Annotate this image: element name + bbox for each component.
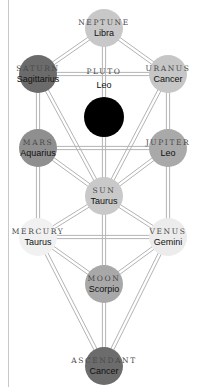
diagram-canvas: NEPTUNELibraSATURNSagittariusURANUSCance… <box>0 0 208 387</box>
saturn-sign-label: Sagittarius <box>17 74 60 84</box>
ascendant-sign-label: Cancer <box>89 366 118 376</box>
mercury-planet-label: MERCURY <box>12 227 64 236</box>
node-ascendant: ASCENDANTCancer <box>70 347 137 385</box>
venus-planet-label: VENUS <box>149 227 187 236</box>
node-saturn: SATURNSagittarius <box>16 55 59 93</box>
tree-of-life-chart: NEPTUNELibraSATURNSagittariusURANUSCance… <box>0 0 208 387</box>
moon-planet-label: MOON <box>88 274 121 283</box>
mars-sign-label: Aquarius <box>20 148 56 158</box>
edge-mercury-ascendant <box>37 236 106 366</box>
planet-nodes: NEPTUNELibraSATURNSagittariusURANUSCance… <box>12 9 191 385</box>
uranus-planet-label: URANUS <box>145 64 190 73</box>
venus-sign-label: Gemini <box>154 237 183 247</box>
node-moon: MOONScorpio <box>85 265 123 303</box>
mercury-sign-label: Taurus <box>24 237 52 247</box>
sun-planet-label: SUN <box>93 186 116 195</box>
sun-sign-label: Taurus <box>90 196 118 206</box>
edge-venus-ascendant <box>103 236 170 366</box>
node-jupiter: JUPITERLeo <box>145 129 191 167</box>
node-pluto: PLUTOLeo <box>84 67 124 137</box>
neptune-planet-label: NEPTUNE <box>78 18 130 27</box>
node-venus: VENUSGemini <box>149 218 187 256</box>
pluto-planet-label: PLUTO <box>86 67 121 76</box>
node-mars: MARSAquarius <box>19 129 57 167</box>
saturn-planet-label: SATURN <box>16 64 59 73</box>
node-sun: SUNTaurus <box>85 177 123 215</box>
ascendant-planet-label: ASCENDANT <box>70 356 137 365</box>
pluto-circle <box>84 97 124 137</box>
moon-sign-label: Scorpio <box>89 284 120 294</box>
mars-planet-label: MARS <box>23 138 53 147</box>
uranus-sign-label: Cancer <box>153 74 182 84</box>
neptune-sign-label: Libra <box>94 28 114 38</box>
pluto-sign-label: Leo <box>96 80 111 90</box>
node-neptune: NEPTUNELibra <box>78 9 130 47</box>
jupiter-sign-label: Leo <box>160 148 175 158</box>
jupiter-planet-label: JUPITER <box>145 138 191 147</box>
